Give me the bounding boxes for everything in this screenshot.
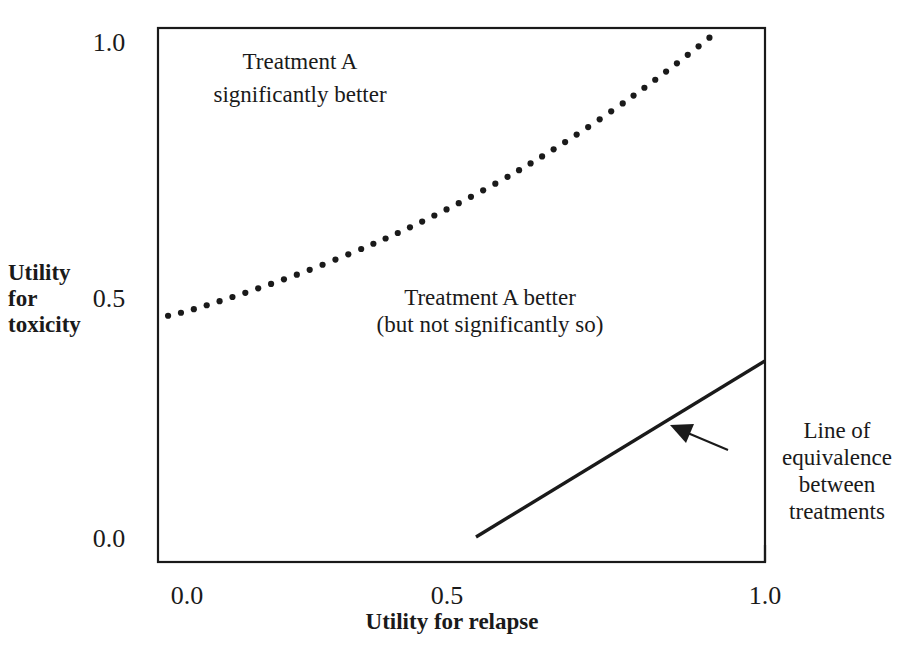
callout-arrow: [670, 424, 728, 450]
y-tick-label-1: 1.0: [82, 30, 136, 56]
region-label-better-line-1: Treatment A better: [370, 286, 610, 309]
significance-boundary-curve: [165, 35, 713, 319]
x-tick-label-0: 0.0: [160, 583, 214, 609]
callout-label-line-3: between: [778, 471, 896, 499]
y-tick-label-0-5: 0.5: [82, 286, 136, 312]
region-label-significant-line-2: significantly better: [180, 83, 420, 106]
y-axis-title-line-3: toxicity: [8, 313, 81, 336]
callout-label-line-2: equivalence: [772, 444, 902, 472]
y-axis-title-line-1: Utility: [8, 261, 71, 284]
y-tick-label-0: 0.0: [82, 526, 136, 552]
line-of-equivalence: [476, 361, 765, 537]
x-tick-label-0-5: 0.5: [420, 583, 474, 609]
x-axis-title: Utility for relapse: [347, 610, 557, 633]
callout-label-line-1: Line of: [778, 417, 896, 445]
region-label-better-line-2: (but not significantly so): [355, 313, 625, 336]
figure-root: 1.0 0.5 0.0 0.0 0.5 1.0 Utility for toxi…: [0, 0, 904, 663]
x-tick-label-1: 1.0: [738, 583, 792, 609]
region-label-significant-line-1: Treatment A: [180, 50, 420, 73]
y-axis-title-line-2: for: [8, 287, 37, 310]
callout-label-line-4: treatments: [772, 498, 902, 526]
